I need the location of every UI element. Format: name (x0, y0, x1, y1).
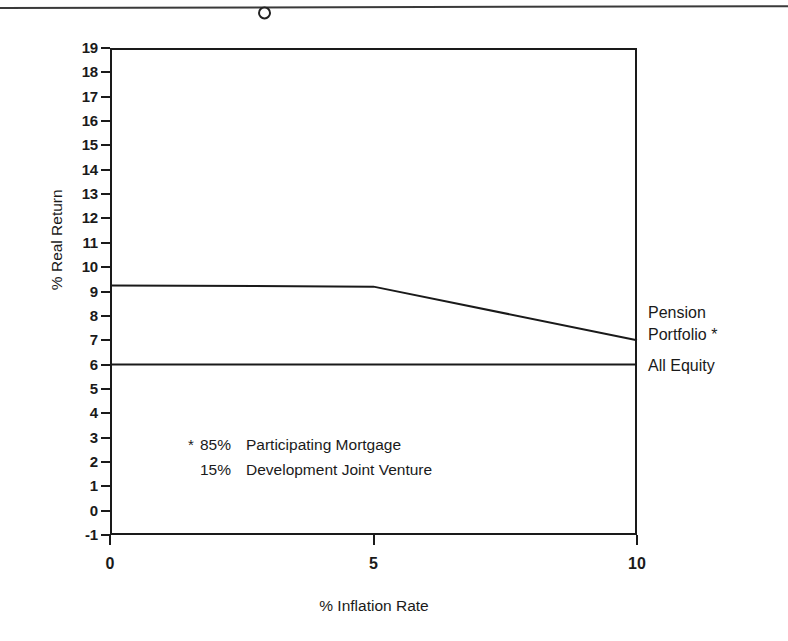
y-axis-tick-label: 2 (90, 454, 98, 469)
chart-footnote: *85%Participating Mortgage 15%Developmen… (188, 432, 432, 482)
chart-figure: % Real Return 19181716151413121110987654… (0, 0, 788, 641)
series-label-pension-line2: Portfolio * (648, 326, 717, 343)
y-axis-tick (101, 217, 110, 219)
y-axis-tick-label: 12 (82, 210, 98, 225)
header-text-descender-artifact (258, 6, 271, 19)
y-axis-tick (101, 266, 110, 268)
y-axis-tick (101, 510, 110, 512)
y-axis-tick (101, 291, 110, 293)
y-axis-tick (101, 47, 110, 49)
x-axis-tick (373, 535, 375, 545)
footnote-line-2: 15%Development Joint Venture (188, 457, 432, 482)
y-axis-tick-label: 18 (82, 64, 98, 79)
y-axis-tick-label: 5 (90, 381, 98, 396)
y-axis-tick (101, 461, 110, 463)
y-axis-tick (101, 120, 110, 122)
y-axis-tick (101, 242, 110, 244)
series-label-pension-line1: Pension (648, 304, 706, 321)
y-axis-tick-label: 8 (90, 308, 98, 323)
y-axis-tick (101, 193, 110, 195)
page-header-rule (0, 5, 788, 9)
y-axis-tick (101, 144, 110, 146)
y-axis-tick (101, 169, 110, 171)
y-axis-tick (101, 315, 110, 317)
x-axis-tick-label: 5 (334, 556, 414, 572)
y-axis-tick (101, 96, 110, 98)
y-axis-tick-label: 16 (82, 113, 98, 128)
footnote-pct-2: 15% (200, 457, 246, 482)
footnote-line-1: *85%Participating Mortgage (188, 432, 432, 457)
y-axis-tick (101, 485, 110, 487)
y-axis-tick-label: 10 (82, 259, 98, 274)
x-axis-tick (636, 535, 638, 545)
y-axis-tick-label: 1 (90, 478, 98, 493)
footnote-pct-1: 85% (200, 432, 246, 457)
y-axis-tick-label: 0 (90, 503, 98, 518)
footnote-asterisk: * (188, 432, 200, 457)
x-axis-tick-label: 0 (70, 556, 150, 572)
y-axis-tick (101, 71, 110, 73)
y-axis-tick-label: 17 (82, 89, 98, 104)
y-axis-title: % Real Return (49, 170, 65, 310)
x-axis-tick (109, 535, 111, 545)
footnote-text-1: Participating Mortgage (246, 436, 401, 453)
y-axis-tick-label: 7 (90, 332, 98, 347)
y-axis-tick-label: 19 (82, 40, 98, 55)
y-axis-tick-label: 14 (82, 162, 98, 177)
y-axis-tick-label: 9 (90, 284, 98, 299)
y-axis-tick (101, 364, 110, 366)
footnote-text-2: Development Joint Venture (246, 461, 432, 478)
y-axis-tick (101, 437, 110, 439)
y-axis-tick (101, 388, 110, 390)
series-label-all-equity: All Equity (648, 355, 715, 377)
y-axis-tick (101, 412, 110, 414)
y-axis-tick-label: 3 (90, 430, 98, 445)
y-axis-tick-label: 13 (82, 186, 98, 201)
x-axis-title: % Inflation Rate (0, 598, 748, 614)
y-axis-tick-label: 4 (90, 405, 98, 420)
y-axis-tick-label: -1 (85, 527, 98, 542)
y-axis-tick-label: 11 (83, 235, 98, 250)
y-axis-tick-label: 15 (82, 137, 98, 152)
x-axis-tick-label: 10 (597, 556, 677, 572)
series-label-pension-portfolio: Pension Portfolio * (648, 302, 717, 346)
y-axis-tick (101, 339, 110, 341)
y-axis-tick-label: 6 (90, 357, 98, 372)
